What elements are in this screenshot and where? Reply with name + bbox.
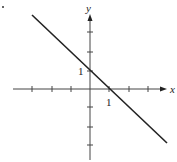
x-axis-arrow-icon (160, 87, 167, 92)
y-axis-label: y (85, 2, 91, 14)
y-axis-arrow-icon (88, 14, 93, 21)
graph: y x 1 1 (0, 0, 177, 162)
y-tick-label-1: 1 (78, 65, 84, 77)
x-axis-label: x (169, 83, 175, 95)
x-tick-label-1: 1 (106, 96, 112, 108)
line-series (32, 15, 167, 143)
stray-dot (2, 6, 4, 8)
